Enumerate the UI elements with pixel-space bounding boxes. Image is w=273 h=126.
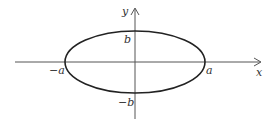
label-b: b bbox=[124, 34, 131, 45]
x-axis-label: x bbox=[256, 67, 262, 78]
ellipse-diagram bbox=[0, 0, 273, 126]
label-a: a bbox=[206, 65, 213, 76]
label-neg-a: −a bbox=[49, 65, 65, 76]
label-neg-b: −b bbox=[118, 97, 134, 108]
y-axis-label: y bbox=[122, 6, 128, 17]
